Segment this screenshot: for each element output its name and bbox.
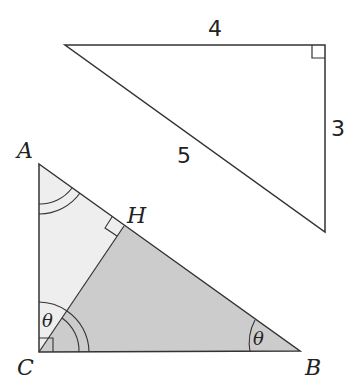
side-label-3: 3 (331, 116, 345, 141)
vertex-label-a: A (15, 138, 33, 163)
angle-label-theta-c: θ (42, 310, 53, 331)
main-triangle (39, 164, 300, 352)
angle-label-theta-b: θ (253, 328, 264, 349)
right-angle-marker (312, 45, 325, 58)
vertex-label-b: B (304, 355, 321, 380)
vertex-label-c: C (17, 355, 34, 380)
reference-triangle (65, 45, 325, 232)
diagram-canvas: 4 3 5 A H C B θ θ (0, 0, 356, 390)
foot-label-h: H (126, 203, 147, 228)
side-label-4: 4 (208, 16, 222, 41)
hypotenuse-label-5: 5 (177, 143, 191, 168)
